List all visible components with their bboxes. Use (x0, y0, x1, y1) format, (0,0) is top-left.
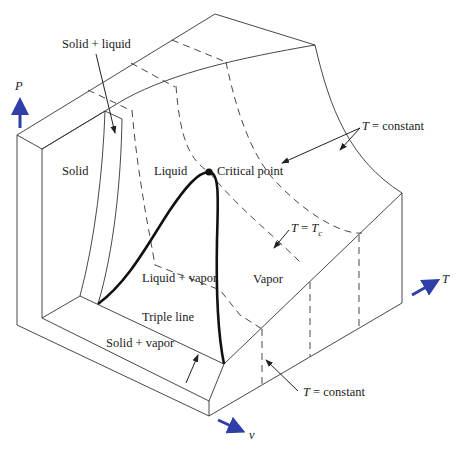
critical-point-label: Critical point (217, 165, 283, 178)
liquid-region-label: Liquid (154, 165, 187, 178)
t-symbol: T (291, 221, 298, 235)
v-axis-arrow-icon (218, 420, 240, 430)
liquid-vapor-label: Liquid + vapor (142, 272, 217, 285)
t-axis-label: T (442, 273, 449, 286)
t-critical-label: T = Tc (291, 222, 322, 238)
solid-vapor-label: Solid + vapor (106, 337, 174, 350)
triple-line-label: Triple line (142, 311, 194, 324)
t-constant-top-label: T = constant (362, 120, 424, 133)
pvt-surface-diagram (0, 0, 467, 451)
v-axis-label: v (249, 429, 255, 442)
critical-point-marker (205, 168, 212, 175)
p-axis-label: P (15, 80, 23, 93)
t-axis-arrow-icon (412, 282, 435, 295)
t-constant-text: = constant (369, 119, 424, 133)
equals-sign: = (298, 221, 311, 235)
t-symbol: T (303, 385, 310, 399)
t-constant-bottom-label: T = constant (303, 386, 365, 399)
surface-outline (17, 14, 402, 416)
critical-subscript: c (318, 228, 322, 238)
t-constant-text: = constant (310, 385, 365, 399)
solid-region-label: Solid (62, 165, 88, 178)
t-symbol: T (362, 119, 369, 133)
solid-liquid-label: Solid + liquid (62, 38, 131, 51)
isotherm-lines (88, 40, 362, 385)
vapor-region-label: Vapor (253, 273, 283, 286)
